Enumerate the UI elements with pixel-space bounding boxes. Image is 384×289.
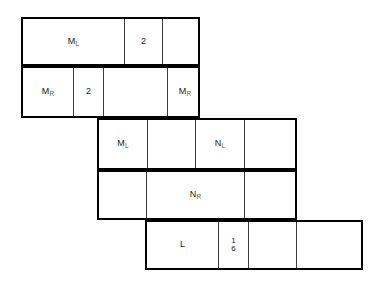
block-row-3: MLNL — [97, 118, 297, 170]
block-cell-2-1-2: 2 — [125, 19, 163, 64]
cell-label: 2 — [74, 87, 103, 97]
cell-label-subscript: L — [221, 142, 225, 149]
block-cell-empty-3-4 — [245, 120, 299, 168]
cell-label: MR — [23, 87, 73, 97]
staircase-diagram: ML2MR2MRMLNLNRL16 — [0, 0, 384, 289]
block-cell-n-l-3-3: NL — [196, 120, 245, 168]
cell-label: NL — [196, 139, 244, 149]
block-cell-empty-4-1 — [99, 172, 147, 218]
block-cell-empty-4-3 — [245, 172, 299, 218]
cell-label-subscript: L — [75, 40, 79, 47]
block-cell-empty-5-3 — [249, 222, 297, 268]
cell-label: ML — [23, 37, 124, 47]
block-cell-n-r-4-2: NR — [147, 172, 245, 218]
cell-label-subscript: R — [196, 193, 201, 200]
cell-label: MR — [168, 87, 202, 97]
cell-label: ML — [99, 139, 147, 149]
cell-label: NR — [147, 190, 244, 200]
block-cell-empty-5-4 — [297, 222, 365, 268]
block-cell-empty-5-2: 16 — [219, 222, 249, 268]
cell-label-subscript: R — [49, 90, 54, 97]
block-row-2: MR2MR — [21, 66, 200, 118]
block-row-1: ML2 — [21, 17, 200, 66]
cell-fraction-label: 16 — [219, 237, 248, 254]
block-cell-m-r-2-4: MR — [168, 68, 202, 116]
block-cell-empty-3-2 — [148, 120, 196, 168]
block-cell-m-r-2-1: MR — [23, 68, 74, 116]
block-row-4: NR — [97, 170, 297, 220]
fraction-denominator: 6 — [230, 245, 237, 253]
block-cell-l-5-1: L — [147, 222, 219, 268]
cell-label-subscript: R — [186, 90, 191, 97]
cell-label-subscript: L — [125, 142, 129, 149]
block-row-5: L16 — [145, 220, 363, 270]
block-cell-2-2-2: 2 — [74, 68, 104, 116]
block-cell-m-l-3-1: ML — [99, 120, 148, 168]
block-cell-empty-2-3 — [104, 68, 168, 116]
fraction: 16 — [230, 237, 237, 254]
block-cell-m-l-1-1: ML — [23, 19, 125, 64]
cell-label: L — [147, 240, 218, 250]
cell-label: 2 — [125, 37, 162, 47]
block-cell-empty-1-3 — [163, 19, 202, 64]
